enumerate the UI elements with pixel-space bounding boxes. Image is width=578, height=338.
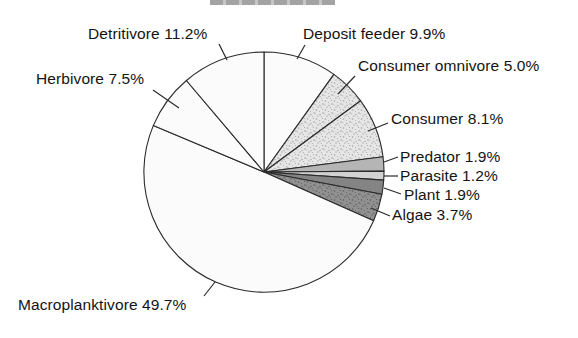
leader-line-predator xyxy=(384,157,398,162)
slice-label-macroplanktivore: Macroplanktivore 49.7% xyxy=(18,296,186,313)
slice-label-detritivore: Detritivore 11.2% xyxy=(88,25,207,42)
leader-line-plant xyxy=(384,188,401,194)
slice-label-herbivore: Herbivore 7.5% xyxy=(36,70,144,87)
slice-label-plant: Plant 1.9% xyxy=(404,186,480,203)
pie-chart-figure: Deposit feeder 9.9%Consumer omnivore 5.0… xyxy=(0,0,578,338)
pie-slices xyxy=(144,52,384,292)
slice-label-algae: Algae 3.7% xyxy=(392,206,472,223)
leader-line-deposit-feeder xyxy=(297,45,305,59)
slice-label-deposit-feeder: Deposit feeder 9.9% xyxy=(303,25,445,42)
leader-line-macroplanktivore xyxy=(204,282,215,296)
slice-label-parasite: Parasite 1.2% xyxy=(400,167,498,184)
slice-label-predator: Predator 1.9% xyxy=(400,148,500,165)
leader-line-detritivore xyxy=(219,44,227,60)
slice-label-consumer-omnivore: Consumer omnivore 5.0% xyxy=(358,57,539,74)
slice-label-consumer: Consumer 8.1% xyxy=(391,110,503,127)
